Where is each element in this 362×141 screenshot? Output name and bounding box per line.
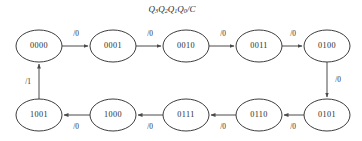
edge-label-0010-0011: /0 — [220, 29, 226, 38]
edge-label-0100-0101: /0 — [335, 75, 341, 84]
state-node-0101[interactable]: 0101 — [304, 99, 350, 131]
edge-label-0101-0110: /0 — [290, 122, 296, 131]
state-node-0111[interactable]: 0111 — [163, 99, 209, 131]
state-label-0111: 0111 — [177, 110, 194, 119]
state-diagram: Q3Q2Q1Q0/C /0 /0 /0 /0 /0 /0 /0 /0 /0 /1… — [0, 0, 362, 141]
edge-label-0000-0001: /0 — [73, 29, 79, 38]
edge-label-0111-1000: /0 — [147, 122, 153, 131]
state-node-0100[interactable]: 0100 — [304, 30, 350, 62]
state-label-1001: 1001 — [30, 110, 48, 119]
edge-label-0110-0111: /0 — [220, 122, 226, 131]
edge-label-1000-1001: /0 — [73, 122, 79, 131]
state-label-0000: 0000 — [30, 41, 48, 50]
state-label-1000: 1000 — [104, 110, 122, 119]
edge-label-0011-0100: /0 — [290, 29, 296, 38]
state-label-0110: 0110 — [250, 110, 268, 119]
diagram-title: Q3Q2Q1Q0/C — [149, 4, 197, 14]
state-node-0010[interactable]: 0010 — [163, 30, 209, 62]
state-label-0001: 0001 — [104, 41, 122, 50]
state-node-0001[interactable]: 0001 — [90, 30, 136, 62]
state-label-0011: 0011 — [250, 41, 268, 50]
state-diagram-canvas: Q3Q2Q1Q0/C /0 /0 /0 /0 /0 /0 /0 /0 /0 /1… — [0, 0, 362, 141]
state-node-0110[interactable]: 0110 — [236, 99, 282, 131]
state-label-0100: 0100 — [318, 41, 336, 50]
state-node-1000[interactable]: 1000 — [90, 99, 136, 131]
edge-label-0001-0010: /0 — [147, 29, 153, 38]
state-label-0010: 0010 — [177, 41, 195, 50]
state-node-0000[interactable]: 0000 — [16, 30, 62, 62]
state-label-0101: 0101 — [318, 110, 336, 119]
state-node-0011[interactable]: 0011 — [236, 30, 282, 62]
state-node-1001[interactable]: 1001 — [16, 99, 62, 131]
edge-label-1001-0000: /1 — [25, 77, 31, 86]
title-suffix: /C — [186, 4, 197, 14]
